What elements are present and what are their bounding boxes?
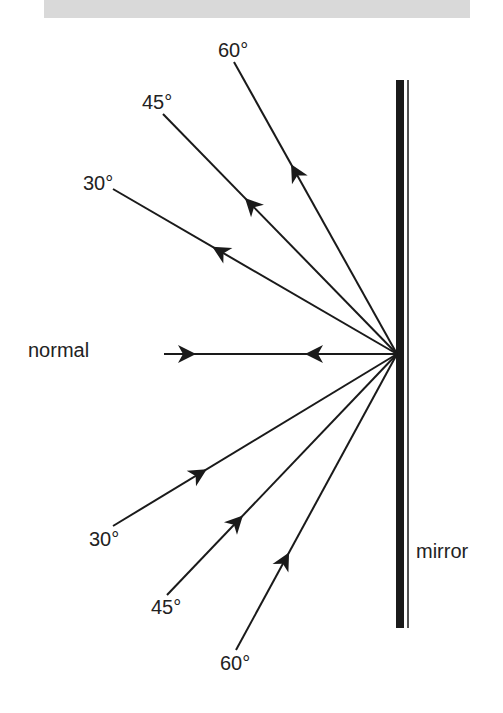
reflected-ray-45 [163,114,397,354]
reflection-diagram: 60° 45° 30° normal 30° 45° 60° mirror [0,0,503,713]
incident-ray-label-60: 60° [220,652,250,674]
reflected-ray-arrow-60 [283,160,307,184]
reflected-ray-arrow-30 [208,239,233,264]
reflected-ray-30 [113,189,397,354]
reflected-ray-60 [234,62,397,354]
normal-label: normal [28,339,89,361]
reflected-ray-label-60: 60° [218,39,248,61]
reflected-ray-label-30: 30° [83,172,113,194]
incident-ray-label-30: 30° [89,528,119,550]
incident-ray-arrow-30 [187,462,212,487]
mirror-label: mirror [416,540,469,562]
mirror-surface [396,80,404,628]
incident-ray-label-45: 45° [151,596,181,618]
incident-ray-arrow-60 [273,548,297,572]
incident-ray-60 [236,354,397,650]
incident-ray-30 [113,354,397,526]
reflected-ray-label-45: 45° [142,91,172,113]
